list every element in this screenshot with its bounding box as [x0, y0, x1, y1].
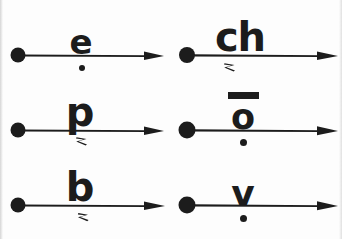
- letter-ch: ch: [203, 17, 277, 57]
- letter-v: v: [223, 176, 263, 212]
- letter-b: b: [60, 167, 100, 207]
- cell-p: p: [0, 75, 171, 155]
- letter-e: e: [61, 25, 101, 59]
- dot-below-diacritic: [240, 139, 247, 146]
- hook-below-diacritic: [77, 211, 90, 222]
- phonetic-arrow-figure: e ch p o: [0, 0, 342, 239]
- letter-o: o: [223, 100, 263, 135]
- dot-below-diacritic: [240, 215, 247, 222]
- letter-p: p: [60, 92, 100, 132]
- cell-o-macron: o: [171, 75, 342, 155]
- hook-below-diacritic: [223, 61, 237, 73]
- cell-v: v: [171, 150, 342, 239]
- cell-ch: ch: [171, 0, 342, 80]
- dot-below-diacritic: [79, 65, 85, 71]
- hook-below-diacritic: [75, 135, 89, 147]
- cell-e: e: [0, 0, 171, 80]
- cell-b: b: [0, 150, 171, 239]
